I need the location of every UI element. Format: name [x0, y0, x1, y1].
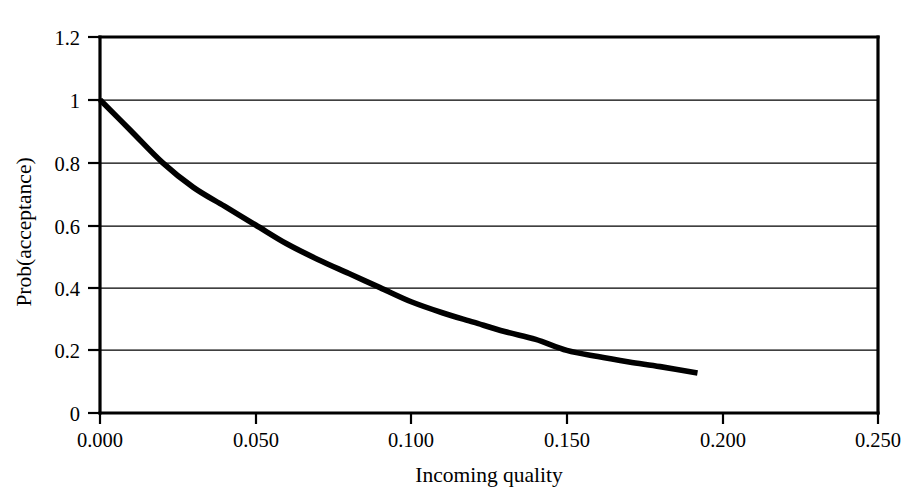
x-tick-label-0.000: 0.000 — [77, 429, 123, 451]
x-tick-label-0.250: 0.250 — [855, 429, 901, 451]
chart-background — [0, 0, 921, 495]
x-tick-label-0.200: 0.200 — [700, 429, 746, 451]
x-tick-label-0.150: 0.150 — [544, 429, 590, 451]
x-tick-label-0.050: 0.050 — [233, 429, 279, 451]
y-tick-label-0.6: 0.6 — [54, 216, 80, 238]
chart-page: 1.2 1 0.8 0.6 0.4 0.2 0 0.000 0.050 0.10… — [0, 0, 921, 495]
y-tick-label-0.4: 0.4 — [54, 278, 80, 300]
x-tick-label-0.100: 0.100 — [388, 429, 434, 451]
x-axis-title: Incoming quality — [415, 463, 563, 487]
y-axis-title: Prob(acceptance) — [12, 157, 36, 306]
y-tick-label-0.8: 0.8 — [54, 153, 80, 175]
oc-curve-chart: 1.2 1 0.8 0.6 0.4 0.2 0 0.000 0.050 0.10… — [0, 0, 921, 495]
y-tick-label-0: 0 — [70, 403, 80, 425]
y-tick-label-0.2: 0.2 — [54, 340, 80, 362]
y-tick-label-1.0: 1 — [70, 90, 80, 112]
y-tick-label-1.2: 1.2 — [54, 27, 80, 49]
